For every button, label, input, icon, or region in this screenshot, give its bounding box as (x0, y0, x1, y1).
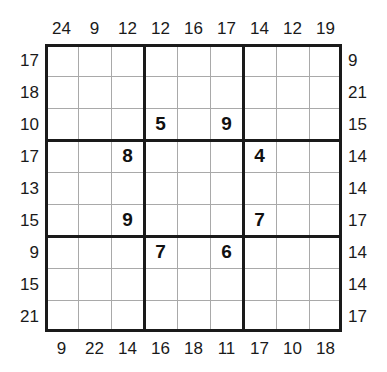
bottom-clue-6: 11 (210, 340, 243, 357)
empty-cell[interactable] (309, 172, 342, 204)
empty-cell[interactable] (78, 76, 111, 108)
empty-cell[interactable] (243, 172, 276, 204)
empty-cell[interactable] (144, 300, 177, 332)
empty-cell[interactable] (177, 204, 210, 236)
empty-cell[interactable] (144, 172, 177, 204)
empty-cell[interactable] (309, 108, 342, 140)
empty-cell[interactable] (309, 236, 342, 268)
bottom-clue-2: 22 (78, 340, 111, 357)
empty-cell[interactable] (177, 108, 210, 140)
empty-cell[interactable] (177, 172, 210, 204)
empty-cell[interactable] (111, 300, 144, 332)
empty-cell[interactable] (243, 236, 276, 268)
empty-cell[interactable] (144, 140, 177, 172)
empty-cell[interactable] (276, 300, 309, 332)
empty-cell[interactable] (78, 268, 111, 300)
left-clue-1: 17 (5, 52, 39, 69)
empty-cell[interactable] (309, 76, 342, 108)
empty-cell[interactable] (78, 108, 111, 140)
empty-cell[interactable] (276, 108, 309, 140)
empty-cell[interactable] (210, 172, 243, 204)
right-clue-2: 21 (348, 84, 382, 101)
empty-cell[interactable] (309, 140, 342, 172)
empty-cell[interactable] (309, 268, 342, 300)
left-clue-7: 9 (5, 244, 39, 261)
empty-cell[interactable] (144, 268, 177, 300)
empty-cell[interactable] (144, 76, 177, 108)
empty-cell[interactable] (111, 44, 144, 76)
empty-cell[interactable] (45, 204, 78, 236)
empty-cell[interactable] (177, 268, 210, 300)
empty-cell[interactable] (45, 44, 78, 76)
empty-cell[interactable] (78, 300, 111, 332)
left-clue-4: 17 (5, 148, 39, 165)
empty-cell[interactable] (210, 268, 243, 300)
given-cell[interactable]: 7 (243, 204, 276, 236)
empty-cell[interactable] (276, 204, 309, 236)
given-cell[interactable]: 4 (243, 140, 276, 172)
empty-cell[interactable] (177, 44, 210, 76)
given-cell[interactable]: 8 (111, 140, 144, 172)
empty-cell[interactable] (177, 300, 210, 332)
given-cell[interactable]: 7 (144, 236, 177, 268)
top-clue-6: 17 (210, 20, 243, 37)
empty-cell[interactable] (210, 204, 243, 236)
empty-cell[interactable] (78, 44, 111, 76)
empty-cell[interactable] (78, 172, 111, 204)
empty-cell[interactable] (276, 76, 309, 108)
given-cell[interactable]: 5 (144, 108, 177, 140)
empty-cell[interactable] (210, 76, 243, 108)
empty-cell[interactable] (144, 44, 177, 76)
empty-cell[interactable] (210, 140, 243, 172)
empty-cell[interactable] (243, 300, 276, 332)
empty-cell[interactable] (243, 268, 276, 300)
empty-cell[interactable] (78, 236, 111, 268)
empty-cell[interactable] (111, 268, 144, 300)
top-clue-8: 12 (276, 20, 309, 37)
empty-cell[interactable] (276, 236, 309, 268)
empty-cell[interactable] (45, 140, 78, 172)
empty-cell[interactable] (210, 300, 243, 332)
empty-cell[interactable] (78, 204, 111, 236)
empty-cell[interactable] (243, 76, 276, 108)
empty-cell[interactable] (276, 268, 309, 300)
empty-cell[interactable] (45, 236, 78, 268)
empty-cell[interactable] (243, 108, 276, 140)
bottom-clue-5: 18 (177, 340, 210, 357)
sudoku-grid[interactable]: 59849776 (45, 44, 342, 332)
empty-cell[interactable] (309, 300, 342, 332)
empty-cell[interactable] (45, 108, 78, 140)
empty-cell[interactable] (45, 300, 78, 332)
empty-cell[interactable] (243, 44, 276, 76)
bottom-clue-7: 17 (243, 340, 276, 357)
empty-cell[interactable] (276, 140, 309, 172)
right-clue-1: 9 (348, 52, 382, 69)
empty-cell[interactable] (276, 44, 309, 76)
empty-cell[interactable] (111, 172, 144, 204)
left-clue-8: 15 (5, 276, 39, 293)
right-clue-9: 17 (348, 308, 382, 325)
right-clue-4: 14 (348, 148, 382, 165)
empty-cell[interactable] (309, 44, 342, 76)
empty-cell[interactable] (177, 76, 210, 108)
frame-sudoku-puzzle: 24912121617141219 92214161811171018 1718… (0, 0, 387, 372)
empty-cell[interactable] (78, 140, 111, 172)
empty-cell[interactable] (309, 204, 342, 236)
right-clue-8: 14 (348, 276, 382, 293)
empty-cell[interactable] (45, 268, 78, 300)
empty-cell[interactable] (210, 44, 243, 76)
bottom-clue-3: 14 (111, 340, 144, 357)
given-cell[interactable]: 9 (210, 108, 243, 140)
empty-cell[interactable] (144, 204, 177, 236)
empty-cell[interactable] (111, 76, 144, 108)
empty-cell[interactable] (45, 172, 78, 204)
empty-cell[interactable] (276, 172, 309, 204)
top-clue-7: 14 (243, 20, 276, 37)
empty-cell[interactable] (177, 140, 210, 172)
given-cell[interactable]: 6 (210, 236, 243, 268)
empty-cell[interactable] (177, 236, 210, 268)
empty-cell[interactable] (45, 76, 78, 108)
empty-cell[interactable] (111, 108, 144, 140)
given-cell[interactable]: 9 (111, 204, 144, 236)
empty-cell[interactable] (111, 236, 144, 268)
